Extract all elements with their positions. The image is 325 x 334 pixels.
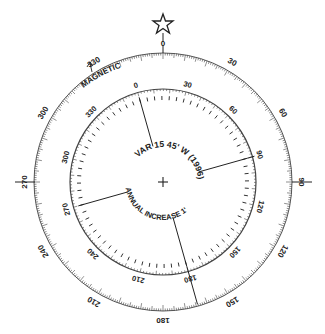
true-ring-tick: [56, 110, 58, 111]
true-ring-tick: [51, 118, 56, 121]
true-ring-tick: [59, 106, 61, 107]
magnetic-inner-tick: [209, 111, 211, 114]
true-ring-tick: [283, 149, 287, 150]
true-degree-label: 180: [156, 316, 170, 325]
magnetic-inner-tick: [240, 152, 244, 153]
true-ring-tick: [210, 62, 211, 64]
magnetic-cardinal-line: [139, 97, 153, 146]
true-ring-tick: [280, 134, 282, 135]
magnetic-ring-tick: [100, 249, 101, 250]
true-ring-tick: [277, 237, 279, 238]
true-ring-tick: [39, 146, 41, 147]
true-ring-tick: [59, 256, 61, 257]
magnetic-inner-tick: [205, 252, 207, 255]
true-ring-tick: [232, 74, 233, 76]
true-ring-tick: [254, 270, 256, 272]
true-ring-tick: [191, 305, 192, 307]
magnetic-inner-tick: [225, 126, 228, 129]
magnetic-inner-tick: [128, 257, 130, 261]
true-ring-tick: [279, 224, 285, 226]
true-ring-tick: [284, 144, 286, 145]
true-ring-tick: [251, 89, 253, 91]
true-ring-tick: [248, 86, 250, 88]
true-ring-tick: [279, 130, 281, 131]
magnetic-inner-tick: [149, 263, 150, 267]
true-ring-tick: [284, 219, 286, 220]
true-ring-tick: [210, 299, 211, 301]
true-ring-tick: [216, 295, 218, 299]
true-ring-tick: [52, 116, 54, 117]
true-ring-tick: [276, 127, 280, 129]
true-ring-tick: [279, 132, 281, 133]
magnetic-inner-tick: [244, 195, 248, 196]
true-ring-tick: [121, 302, 122, 304]
magnetic-ring-tick: [226, 248, 227, 249]
magnetic-ring-tick: [202, 262, 204, 266]
true-ring-tick: [78, 85, 80, 87]
magnetic-ring-tick: [224, 113, 225, 114]
true-ring-tick: [284, 160, 290, 161]
true-degree-label: 240: [36, 243, 51, 260]
magnetic-degree-label: 120: [255, 200, 267, 214]
true-degree-label: 60: [277, 107, 290, 120]
magnetic-ring-tick: [73, 206, 77, 207]
true-ring-tick: [48, 123, 50, 124]
magnetic-ring-tick: [224, 250, 225, 251]
true-ring-tick: [115, 299, 116, 301]
magnetic-inner-tick: [215, 115, 218, 118]
true-degree-label: 270: [20, 175, 29, 189]
true-ring-tick: [200, 59, 201, 61]
true-ring-tick: [263, 260, 265, 262]
magnetic-ring-tick: [81, 224, 83, 225]
true-ring-tick: [286, 210, 288, 211]
magnetic-label: MAGNETIC: [78, 61, 123, 90]
true-ring-tick: [228, 71, 229, 73]
true-ring-tick: [45, 130, 47, 131]
true-ring-tick: [274, 119, 276, 120]
true-ring-tick: [69, 268, 71, 270]
true-ring-tick: [204, 302, 205, 304]
true-ring-tick: [225, 289, 228, 294]
true-ring-tick: [130, 302, 131, 306]
true-ring-tick: [141, 303, 142, 309]
true-ring-tick: [91, 287, 92, 289]
true-ring-tick: [205, 298, 207, 304]
true-ring-tick: [61, 260, 63, 262]
true-ring-tick: [276, 123, 278, 124]
true-ring-tick: [208, 62, 209, 64]
true-ring-tick: [239, 79, 241, 81]
true-ring-tick: [189, 56, 190, 58]
magnetic-inner-tick: [240, 209, 244, 210]
true-ring-tick: [60, 104, 62, 106]
true-ring-tick: [93, 288, 94, 290]
true-ring-tick: [47, 125, 49, 126]
true-ring-tick: [49, 121, 51, 122]
true-ring-tick: [52, 247, 54, 248]
true-ring-tick: [234, 76, 237, 80]
true-ring-tick: [50, 243, 52, 244]
true-ring-tick: [263, 103, 265, 105]
magnetic-inner-tick: [217, 244, 220, 247]
true-ring-tick: [287, 208, 289, 209]
magnetic-ring-tick: [98, 246, 101, 249]
true-degree-label: 210: [85, 294, 102, 309]
magnetic-inner-tick: [135, 259, 136, 263]
true-ring-tick: [257, 267, 259, 269]
true-ring-tick: [44, 231, 46, 232]
true-ring-tick: [208, 300, 209, 302]
true-ring-tick: [200, 303, 201, 305]
true-ring-tick: [41, 223, 43, 224]
true-ring-tick: [269, 112, 271, 113]
magnetic-ring-tick: [125, 263, 127, 267]
true-ring-tick: [225, 70, 228, 75]
true-ring-tick: [237, 284, 238, 286]
magnetic-inner-tick: [178, 263, 179, 267]
true-ring-tick: [194, 305, 195, 307]
true-ring-tick: [224, 69, 225, 71]
true-degree-label: 30: [226, 56, 239, 69]
true-ring-tick: [287, 155, 289, 156]
true-ring-tick: [270, 249, 272, 250]
magnetic-ring-tick: [206, 100, 207, 102]
variation-label: VAR 15 45' W (1996): [131, 128, 215, 183]
magnetic-inner-tick: [93, 230, 96, 232]
